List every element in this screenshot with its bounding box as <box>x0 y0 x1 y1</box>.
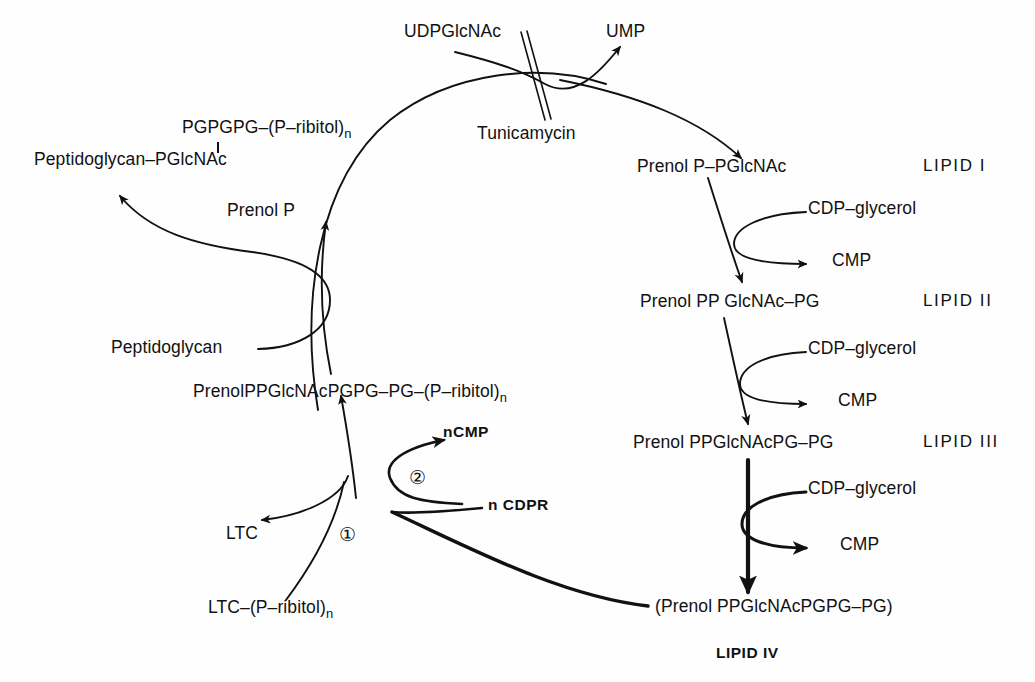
label-tunicamycin: Tunicamycin <box>477 124 576 142</box>
label-cdp-glycerol-2: CDP–glycerol <box>808 339 916 357</box>
label-peptidoglycan: Peptidoglycan <box>111 338 222 356</box>
label-lipid-i-tag: LIPID I <box>923 157 986 175</box>
label-ltc-ribitol: LTC–(P–ribitol)n <box>208 598 333 621</box>
label-lipid-iii-name: Prenol PPGlcNAcPG–PG <box>633 433 833 451</box>
ltc-ribitol-text: LTC–(P–ribitol) <box>208 597 326 617</box>
label-prenol-p: Prenol P <box>227 201 295 219</box>
label-pgpgpg-ribitol: PGPGPG–(P–ribitol)n <box>182 118 351 141</box>
tunicamycin-bar-1 <box>521 32 545 120</box>
peptidoglycan-transfer-arc <box>120 196 330 349</box>
pgpgpg-ribitol-subscript: n <box>344 126 351 141</box>
label-peptidoglycan-pglcnac: Peptidoglycan–PGlcNAc <box>34 150 227 168</box>
label-lipid-ii-name: Prenol PP GlcNAc–PG <box>640 292 820 310</box>
cdp-glycerol-1-arc <box>734 212 806 264</box>
label-cmp-3: CMP <box>840 535 879 553</box>
label-cmp-1: CMP <box>832 251 871 269</box>
cdp-glycerol-2-arc <box>740 352 806 404</box>
label-cdp-glycerol-1: CDP–glycerol <box>808 199 916 217</box>
ltc-ribitol-subscript: n <box>326 606 333 621</box>
lipid4-to-cycle-line <box>392 512 648 606</box>
label-udpglcnac: UDPGlcNAc <box>404 22 501 40</box>
label-cmp-2: CMP <box>838 391 877 409</box>
pgpgpg-ribitol-text: PGPGPG–(P–ribitol) <box>182 117 344 137</box>
cycle-arc-right <box>560 80 741 158</box>
lipid1-to-lipid2-arrow <box>708 178 742 282</box>
label-central-intermediate: PrenolPPGlcNAcPGPG–PG–(P–ribitol)n <box>193 382 507 405</box>
label-lipid-iv-tag: LIPID IV <box>716 645 779 661</box>
label-ump: UMP <box>606 22 645 40</box>
central-intermediate-text: PrenolPPGlcNAcPGPG–PG–(P–ribitol) <box>193 381 500 401</box>
label-lipid-iv-name: (Prenol PPGlcNAcPGPG–PG) <box>655 597 893 615</box>
label-lipid-iii-tag: LIPID III <box>923 433 999 451</box>
step-2-circled-number: ② <box>409 466 426 489</box>
label-ncmp: nCMP <box>443 424 489 440</box>
label-ltc: LTC <box>226 524 258 542</box>
central-intermediate-subscript: n <box>500 390 507 405</box>
label-lipid-i-name: Prenol P–PGlcNAc <box>637 157 786 175</box>
label-cdp-glycerol-3: CDP–glycerol <box>808 479 916 497</box>
label-lipid-ii-tag: LIPID II <box>923 292 993 310</box>
label-ncdpr: n CDPR <box>488 497 549 513</box>
cdp-glycerol-3-arc <box>742 492 806 548</box>
ncdpr-feed-line <box>392 508 482 513</box>
diagram-canvas: UDPGlcNAc UMP Tunicamycin PGPGPG–(P–ribi… <box>0 0 1035 682</box>
step-1-circled-number: ① <box>339 523 356 546</box>
tunicamycin-bar-2 <box>527 31 551 119</box>
step1-substrate-arc <box>286 482 344 600</box>
